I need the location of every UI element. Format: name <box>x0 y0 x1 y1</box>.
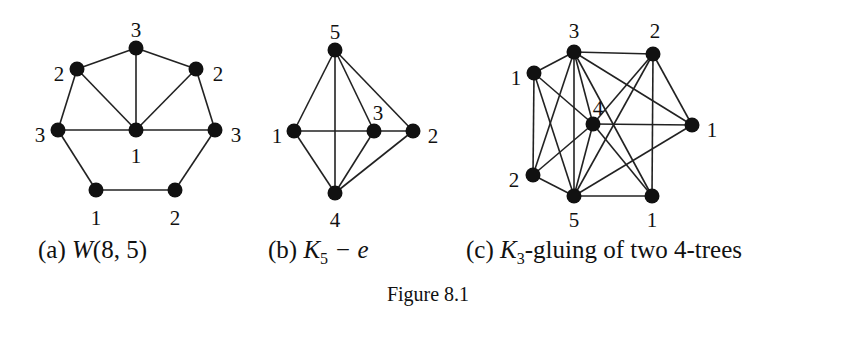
vertex-label: 1 <box>272 124 283 148</box>
vertex-label: 3 <box>231 123 242 147</box>
subcaption-c-subscript: 3 <box>517 250 525 267</box>
graph-edge <box>593 124 652 196</box>
graph-edge <box>136 69 196 130</box>
graph-vertex <box>208 123 223 138</box>
vertex-label: 2 <box>54 62 65 86</box>
graph-vertex <box>129 123 144 138</box>
graph-vertex <box>567 189 582 204</box>
graph-edge <box>294 131 335 193</box>
subcaption-b-symbol: K <box>303 236 320 263</box>
graph-vertex <box>685 118 700 133</box>
vertex-label: 3 <box>35 123 46 147</box>
vertex-label: 2 <box>213 62 224 86</box>
graph-vertex <box>168 183 183 198</box>
vertex-label: 1 <box>91 206 102 230</box>
graph-vertex <box>89 183 104 198</box>
graph-edge <box>533 73 534 175</box>
graph-vertex <box>645 189 660 204</box>
figure-caption: Figure 8.1 <box>0 283 856 306</box>
subcaption-c-label: (c) <box>466 236 494 263</box>
graph-edge <box>335 50 374 131</box>
graph-vertex <box>287 124 302 139</box>
subcaption-a: (a) W(8, 5) <box>38 236 147 264</box>
graph-vertex <box>189 62 204 77</box>
vertex-label: 5 <box>569 208 580 232</box>
graph-k3-gluing: 32141251 <box>509 19 718 232</box>
graph-edge <box>652 54 653 196</box>
vertex-label: 3 <box>131 18 142 42</box>
graph-edge <box>574 125 692 196</box>
subcaption-b-subscript: 5 <box>320 250 328 267</box>
graph-edge <box>58 130 96 190</box>
vertex-label: 1 <box>707 118 718 142</box>
graph-vertex <box>70 62 85 77</box>
vertex-label: 2 <box>170 206 181 230</box>
graph-edge <box>77 69 136 130</box>
vertex-label: 3 <box>569 19 580 43</box>
graph-k5-minus-e: 51324 <box>272 20 439 232</box>
graph-vertex <box>567 45 582 60</box>
subcaption-c: (c) K3-gluing of two 4-trees <box>466 236 742 268</box>
graph-edge <box>574 52 653 54</box>
graph-edge <box>294 50 335 131</box>
graph-edge <box>593 124 692 125</box>
graph-edge <box>136 48 196 69</box>
subcaption-c-symbol: K <box>500 236 517 263</box>
subcaption-c-rest: -gluing of two 4-trees <box>525 236 742 263</box>
vertex-label: 2 <box>428 124 439 148</box>
subcaption-a-params: (8, 5) <box>93 236 147 263</box>
graph-wheel-w85: 32231312 <box>35 18 242 230</box>
subcaption-b-rest: − e <box>328 236 368 263</box>
vertex-label: 1 <box>131 144 142 168</box>
vertex-label: 2 <box>509 168 520 192</box>
graph-edge <box>175 130 215 190</box>
graph-vertex <box>367 124 382 139</box>
graph-vertex <box>527 66 542 81</box>
graph-vertex <box>526 168 541 183</box>
graph-vertex <box>328 186 343 201</box>
graph-edge <box>77 48 136 69</box>
subcaption-b-label: (b) <box>268 236 297 263</box>
figure-canvas: 32231312 51324 32141251 <box>0 0 856 240</box>
subcaption-b: (b) K5 − e <box>268 236 369 268</box>
graph-vertex <box>406 124 421 139</box>
graph-vertex <box>646 47 661 62</box>
graph-vertex <box>51 123 66 138</box>
graph-vertex <box>328 43 343 58</box>
subcaption-a-symbol: W <box>72 236 93 263</box>
vertex-label: 1 <box>511 66 522 90</box>
graph-edge <box>335 131 413 193</box>
vertex-label: 5 <box>330 20 341 44</box>
subcaption-a-label: (a) <box>38 236 66 263</box>
graph-edge <box>653 54 692 125</box>
vertex-label: 4 <box>330 208 341 232</box>
graph-edge <box>335 131 374 193</box>
vertex-label: 2 <box>650 19 661 43</box>
vertex-label: 1 <box>647 208 658 232</box>
graph-edge <box>574 124 593 196</box>
vertex-label: 3 <box>373 101 384 125</box>
graph-vertex <box>129 41 144 56</box>
vertex-label: 4 <box>593 96 604 120</box>
